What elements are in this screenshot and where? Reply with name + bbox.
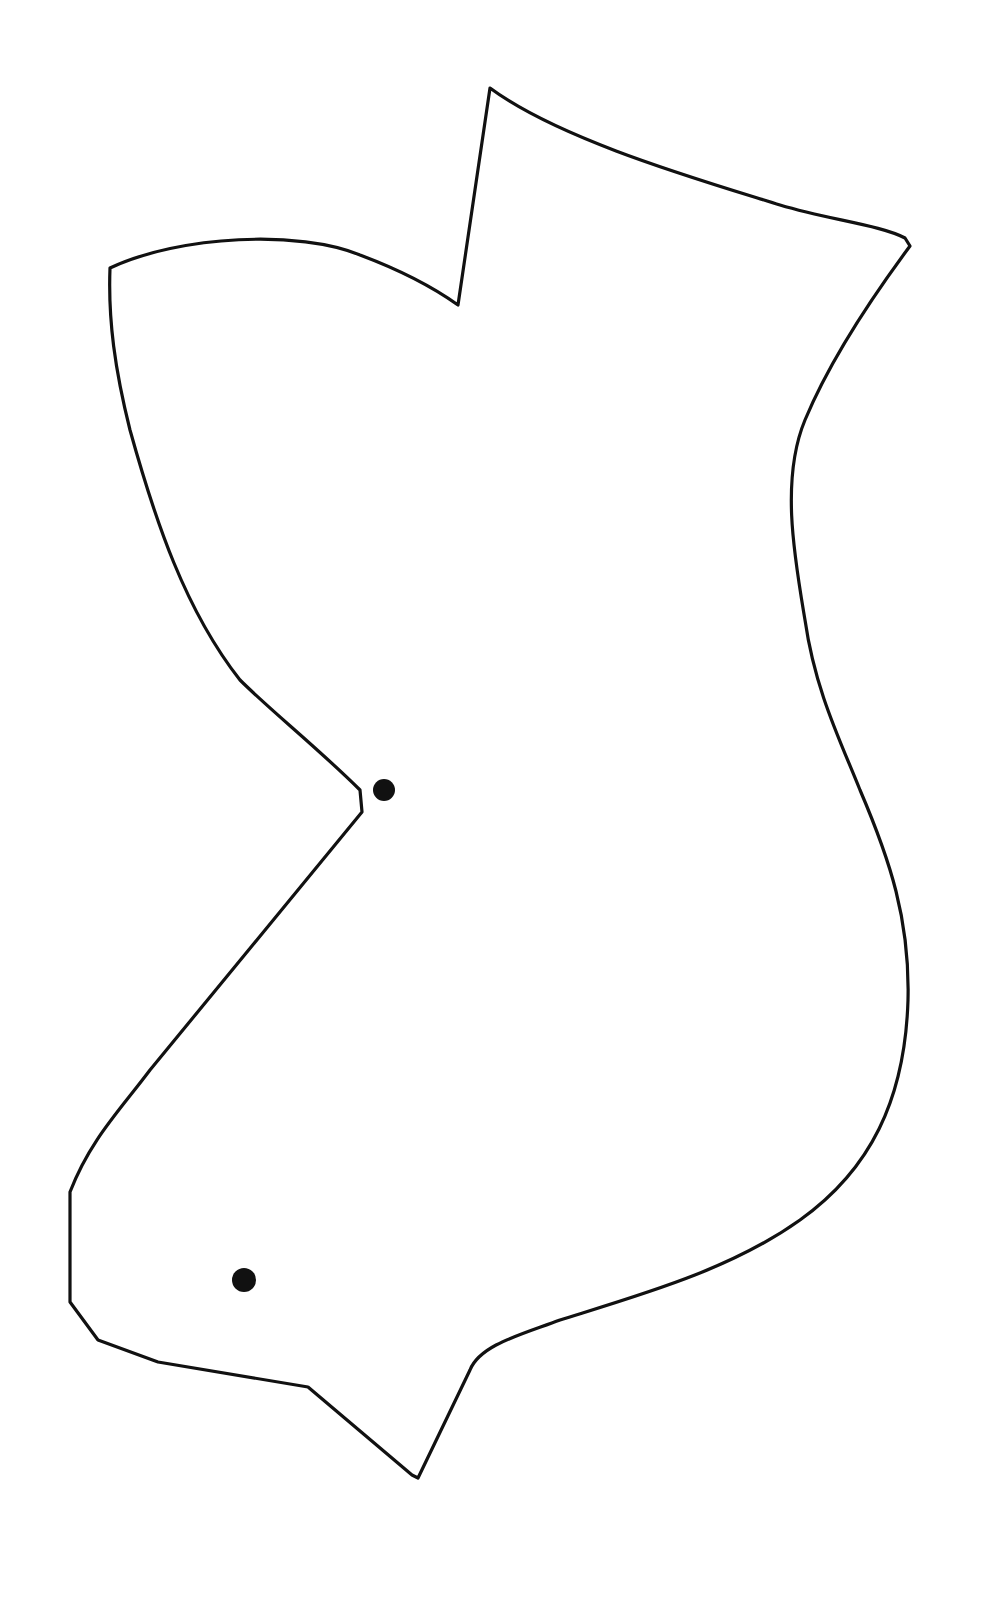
upper-dot: [373, 779, 395, 801]
shape-outline: [70, 88, 910, 1478]
drawing-canvas: [0, 0, 1000, 1610]
lower-dot: [232, 1268, 256, 1292]
outline-figure: [0, 0, 1000, 1610]
